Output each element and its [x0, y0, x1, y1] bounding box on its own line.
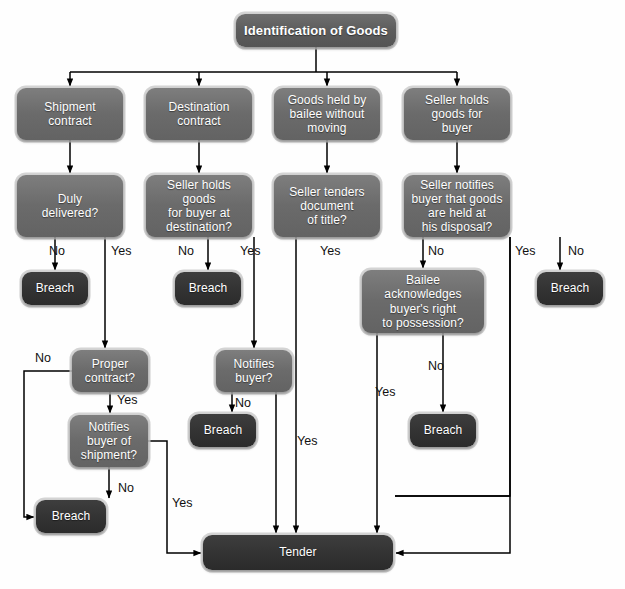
node-label-tender: Tender: [276, 545, 319, 559]
node-breach1[interactable]: Breach: [22, 272, 88, 305]
edge-label-el-proper-no: No: [35, 352, 51, 365]
node-breach5[interactable]: Breach: [410, 414, 476, 447]
node-label-q4: Seller notifiesbuyer that goodsare held …: [409, 178, 506, 235]
node-label-b4: Seller holdsgoods forbuyer: [422, 93, 492, 135]
node-label-breach6: Breach: [49, 509, 94, 523]
node-q4[interactable]: Seller notifiesbuyer that goodsare held …: [404, 175, 510, 237]
node-qproper[interactable]: Propercontract?: [72, 350, 148, 392]
node-b2[interactable]: Destinationcontract: [146, 88, 252, 140]
edge-label-el-notifies-no: No: [235, 397, 251, 410]
node-root[interactable]: Identification of Goods: [236, 14, 396, 47]
node-b1[interactable]: Shipmentcontract: [17, 88, 123, 140]
node-label-b2: Destinationcontract: [165, 100, 232, 128]
node-label-b1: Shipmentcontract: [41, 100, 99, 128]
node-label-breach1: Breach: [33, 281, 78, 295]
edge-label-el-q3-no: No: [428, 245, 444, 258]
node-qnotifies[interactable]: Notifiesbuyer?: [216, 350, 292, 392]
node-label-qproper: Propercontract?: [82, 357, 138, 385]
node-breach3[interactable]: Breach: [190, 414, 256, 447]
node-label-breach4: Breach: [548, 281, 593, 295]
node-label-breach3: Breach: [201, 423, 246, 437]
node-q1[interactable]: Dulydelivered?: [17, 175, 123, 237]
node-label-b3: Goods held bybailee withoutmoving: [285, 93, 370, 135]
edge-label-el-ship-yes: Yes: [172, 497, 192, 510]
edge-label-el-q4-yes: Yes: [515, 245, 535, 258]
node-label-breach5: Breach: [421, 423, 466, 437]
edge-label-el-bailee-yes: Yes: [375, 386, 395, 399]
edge-label-el-bailee-no: No: [428, 360, 444, 373]
node-label-q1: Dulydelivered?: [39, 192, 101, 220]
node-b3[interactable]: Goods held bybailee withoutmoving: [274, 88, 380, 140]
node-qnotifyship[interactable]: Notifiesbuyer ofshipment?: [70, 415, 148, 467]
node-label-qnotifyship: Notifiesbuyer ofshipment?: [78, 420, 140, 462]
node-b4[interactable]: Seller holdsgoods forbuyer: [404, 88, 510, 140]
node-label-root: Identification of Goods: [241, 23, 391, 38]
node-label-qbailee: Baileeacknowledgesbuyer's rightto posses…: [379, 273, 466, 330]
edge-label-el-q1-no: No: [49, 245, 65, 258]
edge-label-el-q2-no: No: [178, 245, 194, 258]
flowchart-canvas: Identification of GoodsShipmentcontractD…: [0, 0, 625, 589]
node-label-breach2: Breach: [186, 281, 231, 295]
node-breach4[interactable]: Breach: [537, 272, 603, 305]
node-label-q2: Seller holds goodsfor buyer atdestinatio…: [146, 178, 252, 235]
edge-label-el-notifies-yes: Yes: [297, 435, 317, 448]
edge-label-el-q4-no: No: [568, 245, 584, 258]
edge-label-el-q1-yes: Yes: [111, 245, 131, 258]
edge-label-el-ship-no: No: [118, 482, 134, 495]
node-breach6[interactable]: Breach: [36, 500, 106, 533]
edge-label-el-q2-yes: Yes: [240, 245, 260, 258]
node-breach2[interactable]: Breach: [175, 272, 241, 305]
node-label-q3: Seller tendersdocumentof title?: [286, 185, 367, 227]
node-q2[interactable]: Seller holds goodsfor buyer atdestinatio…: [146, 175, 252, 237]
node-label-qnotifies: Notifiesbuyer?: [231, 357, 278, 385]
edge-label-el-q3-yes: Yes: [320, 245, 340, 258]
node-qbailee[interactable]: Baileeacknowledgesbuyer's rightto posses…: [362, 270, 484, 333]
edge-proper-no-breach6: [24, 371, 72, 517]
node-q3[interactable]: Seller tendersdocumentof title?: [274, 175, 380, 237]
node-tender[interactable]: Tender: [203, 535, 393, 570]
edge-label-el-proper-yes: Yes: [117, 394, 137, 407]
